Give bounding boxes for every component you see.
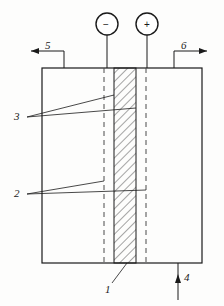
callout-label-4: 4 (184, 272, 190, 283)
figure-canvas: − + 5 6 3 2 1 4 (0, 0, 224, 306)
membrane-hatch-fill (114, 68, 136, 263)
inlet-left-arrowhead (31, 48, 39, 54)
anode-sign-label: + (144, 20, 150, 30)
callout-label-2: 2 (14, 188, 20, 199)
callout-label-5: 5 (45, 40, 51, 51)
outlet-bottom-arrowhead (175, 274, 181, 283)
callout-label-6: 6 (181, 40, 187, 51)
inlet-right-arrowhead (199, 48, 207, 54)
electrochemical-cell-diagram (0, 0, 224, 306)
callout-label-1: 1 (105, 284, 111, 295)
cathode-sign-label: − (103, 20, 109, 30)
leader-1-membrane (112, 263, 127, 283)
inlet-right-pipe (174, 51, 207, 68)
inlet-left-pipe (31, 51, 64, 68)
callout-label-3: 3 (14, 111, 20, 122)
